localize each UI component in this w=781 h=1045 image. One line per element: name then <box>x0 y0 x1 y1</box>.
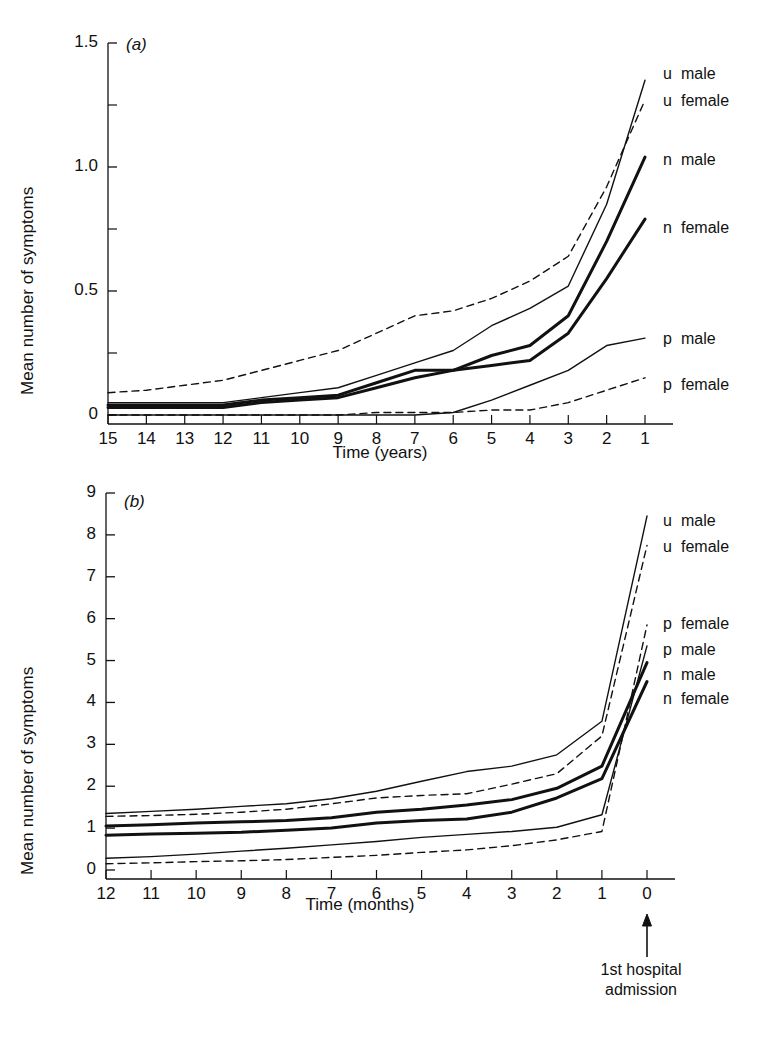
chart-panel-a: Mean number of symptoms Time (years) (a)… <box>0 0 781 480</box>
legend-sex: female <box>681 690 729 708</box>
panel-a-x-tick-3: 3 <box>548 429 588 449</box>
panel-b-tag: (b) <box>124 492 145 512</box>
legend-code: p <box>663 330 681 348</box>
panel-b-x-tick-12: 12 <box>86 884 126 904</box>
panel-b-plot-area <box>0 470 781 1045</box>
panel-b-legend-item-p-female: pfemale <box>663 615 729 633</box>
panel-a-series-n-male <box>108 157 645 405</box>
panel-a-x-tick-5: 5 <box>472 429 512 449</box>
panel-a-x-tick-9: 9 <box>318 429 358 449</box>
panel-a-series-u-female <box>108 100 645 393</box>
panel-b-y-tick-4: 4 <box>40 691 96 711</box>
legend-sex: male <box>681 330 716 348</box>
panel-b-x-tick-9: 9 <box>221 884 261 904</box>
panel-b-series-n-male <box>106 663 647 826</box>
legend-sex: female <box>681 615 729 633</box>
panel-a-tag: (a) <box>126 35 147 55</box>
panel-b-legend-item-n-female: nfemale <box>663 690 729 708</box>
first-hospital-admission-annotation: 1st hospital admission <box>566 960 716 1000</box>
panel-a-x-tick-2: 2 <box>587 429 627 449</box>
panel-a-x-tick-12: 12 <box>203 429 243 449</box>
up-arrow-icon <box>643 914 652 957</box>
legend-code: p <box>663 615 681 633</box>
panel-a-series-n-female <box>108 219 645 407</box>
legend-sex: male <box>681 151 716 169</box>
legend-code: u <box>663 512 681 530</box>
panel-a-x-tick-11: 11 <box>241 429 281 449</box>
legend-sex: female <box>681 538 729 556</box>
panel-b-x-tick-6: 6 <box>357 884 397 904</box>
legend-code: u <box>663 65 681 83</box>
legend-sex: female <box>681 376 729 394</box>
panel-b-x-tick-5: 5 <box>402 884 442 904</box>
panel-b-series-u-female <box>106 545 647 816</box>
panel-a-x-tick-14: 14 <box>126 429 166 449</box>
panel-b-x-tick-10: 10 <box>176 884 216 904</box>
legend-code: n <box>663 690 681 708</box>
panel-a-axes <box>108 43 673 424</box>
figure-root: Mean number of symptoms Time (years) (a)… <box>0 0 781 1045</box>
panel-b-y-tick-6: 6 <box>40 608 96 628</box>
panel-a-legend-item-p-female: pfemale <box>663 376 729 394</box>
legend-sex: male <box>681 65 716 83</box>
legend-code: n <box>663 151 681 169</box>
panel-b-y-tick-8: 8 <box>40 524 96 544</box>
panel-b-x-tick-3: 3 <box>492 884 532 904</box>
panel-a-legend-item-n-male: nmale <box>663 151 716 169</box>
panel-b-y-tick-2: 2 <box>40 775 96 795</box>
panel-a-x-tick-6: 6 <box>433 429 473 449</box>
panel-a-x-tick-8: 8 <box>357 429 397 449</box>
legend-sex: female <box>681 92 729 110</box>
legend-code: p <box>663 376 681 394</box>
panel-b-series-u-male <box>106 516 647 813</box>
panel-b-y-axis-label: Mean number of symptoms <box>18 667 38 875</box>
legend-code: n <box>663 666 681 684</box>
legend-sex: male <box>681 666 716 684</box>
legend-sex: female <box>681 219 729 237</box>
panel-b-series-p-female <box>106 625 647 864</box>
panel-b-y-tick-1: 1 <box>40 817 96 837</box>
chart-panel-b: Mean number of symptoms Time (months) (b… <box>0 470 781 1045</box>
panel-a-y-tick-1.5: 1.5 <box>40 32 98 52</box>
panel-a-y-axis-label: Mean number of symptoms <box>18 187 38 395</box>
panel-b-x-tick-1: 1 <box>582 884 622 904</box>
annotation-line-1: 1st hospital <box>566 960 716 980</box>
panel-b-x-tick-2: 2 <box>537 884 577 904</box>
panel-a-x-tick-15: 15 <box>88 429 128 449</box>
panel-b-legend-item-n-male: nmale <box>663 666 716 684</box>
panel-a-y-tick-0: 0 <box>40 404 98 424</box>
panel-b-legend-item-u-female: ufemale <box>663 538 729 556</box>
legend-sex: male <box>681 512 716 530</box>
panel-b-y-tick-7: 7 <box>40 566 96 586</box>
panel-a-x-tick-4: 4 <box>510 429 550 449</box>
panel-b-x-tick-8: 8 <box>266 884 306 904</box>
panel-a-legend-item-p-male: pmale <box>663 330 716 348</box>
panel-a-legend-item-u-male: umale <box>663 65 716 83</box>
panel-a-series-u-male <box>108 80 645 402</box>
panel-b-y-tick-3: 3 <box>40 733 96 753</box>
legend-code: u <box>663 92 681 110</box>
panel-b-legend-item-p-male: pmale <box>663 641 716 659</box>
panel-b-y-tick-9: 9 <box>40 482 96 502</box>
panel-a-x-tick-10: 10 <box>280 429 320 449</box>
panel-a-legend-item-u-female: ufemale <box>663 92 729 110</box>
panel-b-y-tick-0: 0 <box>40 859 96 879</box>
panel-a-y-tick-1.0: 1.0 <box>40 156 98 176</box>
panel-a-legend-item-n-female: nfemale <box>663 219 729 237</box>
panel-a-y-tick-0.5: 0.5 <box>40 280 98 300</box>
legend-sex: male <box>681 641 716 659</box>
panel-b-series-p-male <box>106 646 647 858</box>
panel-b-y-tick-5: 5 <box>40 650 96 670</box>
panel-a-x-tick-13: 13 <box>165 429 205 449</box>
panel-a-x-tick-1: 1 <box>625 429 665 449</box>
panel-a-x-tick-7: 7 <box>395 429 435 449</box>
panel-b-x-tick-7: 7 <box>311 884 351 904</box>
legend-code: p <box>663 641 681 659</box>
legend-code: n <box>663 219 681 237</box>
panel-b-x-tick-0: 0 <box>627 884 667 904</box>
legend-code: u <box>663 538 681 556</box>
annotation-line-2: admission <box>566 980 716 1000</box>
panel-b-x-tick-11: 11 <box>131 884 171 904</box>
panel-b-x-tick-4: 4 <box>447 884 487 904</box>
panel-b-legend-item-u-male: umale <box>663 512 716 530</box>
